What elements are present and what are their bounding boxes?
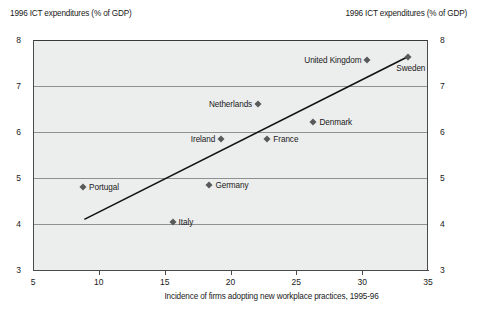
- y-tick-label-left-7: 7: [16, 81, 21, 91]
- y-axis-right: [427, 40, 428, 271]
- gridline-y-8: [33, 40, 428, 41]
- chart-figure: 1996 ICT expenditures (% of GDP) 1996 IC…: [0, 0, 477, 309]
- x-tick-30: [362, 270, 363, 275]
- y-tick-label-right-7: 7: [440, 81, 445, 91]
- plot-area: [33, 40, 428, 270]
- y-axis-left: [33, 40, 34, 271]
- data-point-label: Portugal: [89, 183, 119, 192]
- y-tick-label-left-4: 4: [16, 219, 21, 229]
- y-tick-label-left-5: 5: [16, 173, 21, 183]
- data-point-label: United Kingdom: [304, 55, 361, 64]
- x-tick-label-30: 30: [357, 277, 366, 287]
- gridline-y-7: [33, 86, 428, 87]
- x-tick-20: [231, 270, 232, 275]
- y-tick-label-left-6: 6: [16, 127, 21, 137]
- y-tick-label-right-3: 3: [440, 265, 445, 275]
- x-tick-10: [99, 270, 100, 275]
- x-tick-label-25: 25: [292, 277, 301, 287]
- x-tick-label-15: 15: [160, 277, 169, 287]
- y-tick-label-left-8: 8: [16, 35, 21, 45]
- gridline-y-4: [33, 224, 428, 225]
- y-tick-label-right-4: 4: [440, 219, 445, 229]
- x-axis-title: Incidence of firms adopting new workplac…: [164, 292, 378, 301]
- data-point-label: France: [273, 134, 298, 143]
- x-tick-label-20: 20: [226, 277, 235, 287]
- x-tick-label-35: 35: [423, 277, 432, 287]
- x-tick-label-10: 10: [94, 277, 103, 287]
- y-tick-label-left-3: 3: [16, 265, 21, 275]
- x-tick-15: [165, 270, 166, 275]
- data-point-label: Denmark: [319, 117, 352, 126]
- y-tick-label-right-8: 8: [440, 35, 445, 45]
- data-point-label: Netherlands: [209, 99, 252, 108]
- x-tick-label-5: 5: [31, 277, 36, 287]
- gridline-y-5: [33, 178, 428, 179]
- data-point-label: Ireland: [191, 134, 215, 143]
- y-tick-label-right-6: 6: [440, 127, 445, 137]
- data-point-label: Sweden: [396, 64, 425, 73]
- y-tick-label-right-5: 5: [440, 173, 445, 183]
- gridline-y-6: [33, 132, 428, 133]
- data-point-label: Germany: [215, 180, 248, 189]
- y-axis-title-left: 1996 ICT expenditures (% of GDP): [10, 9, 132, 18]
- y-axis-title-right: 1996 ICT expenditures (% of GDP): [345, 9, 467, 18]
- data-point-label: Italy: [179, 218, 194, 227]
- x-tick-25: [296, 270, 297, 275]
